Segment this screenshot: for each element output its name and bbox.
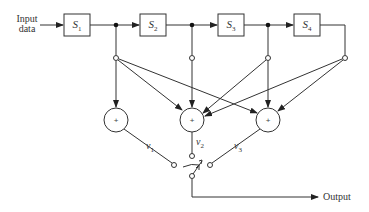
input-label: Input data	[12, 14, 42, 34]
output-label: Output	[323, 192, 351, 202]
switch-contact-3	[208, 163, 213, 168]
output-v2-label: v2	[196, 136, 204, 150]
stage-label-2: S2	[140, 18, 166, 33]
adder-1-plus: +	[114, 116, 119, 125]
output-v1-label: v1	[146, 140, 154, 154]
stage-label-1: S1	[64, 18, 90, 33]
stage-label-4: S4	[294, 18, 320, 33]
adder-2-plus: +	[190, 116, 195, 125]
adder-3-plus: +	[266, 116, 271, 125]
stage-label-3: S3	[218, 18, 244, 33]
switch-contact-1	[172, 163, 177, 168]
switch-arm	[193, 161, 202, 174]
switch-pivot	[190, 174, 195, 179]
switch-contact-2	[190, 154, 195, 159]
output-v3-label: v3	[234, 140, 242, 154]
